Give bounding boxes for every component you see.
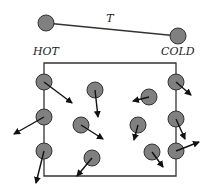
temperature-label: T	[106, 12, 115, 25]
cold-label: COLD	[161, 45, 195, 58]
hot-label: HOT	[32, 45, 61, 58]
particle	[73, 117, 103, 139]
velocity-arrow-icon	[14, 117, 44, 134]
particle	[130, 117, 146, 140]
particle	[77, 150, 100, 176]
particle	[168, 142, 199, 159]
particle	[133, 89, 157, 105]
particle	[168, 74, 191, 95]
particle	[144, 144, 163, 167]
cold-end-ball	[170, 28, 186, 44]
particle	[87, 82, 103, 117]
rod-group: T	[38, 12, 186, 44]
hot-end-ball	[38, 15, 54, 31]
particles-group	[14, 74, 199, 183]
particle	[14, 109, 52, 134]
thermal-diagram: T HOT COLD	[0, 0, 211, 188]
velocity-arrow-icon	[44, 82, 72, 103]
particle	[36, 74, 72, 103]
